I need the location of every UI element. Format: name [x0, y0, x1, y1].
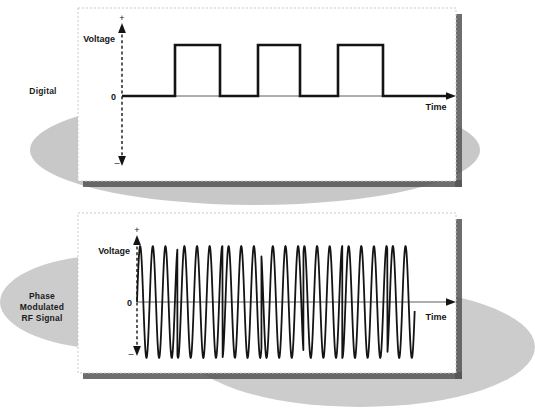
pm-label-line-2: Modulated	[8, 302, 76, 313]
figure-canvas: Digital + – Voltage 0 Time Phase Modulat…	[0, 0, 535, 414]
pm-minus-sign: –	[128, 349, 133, 359]
pm-label-line-3: RF Signal	[8, 313, 76, 324]
digital-panel-card	[78, 8, 456, 181]
digital-label-text: Digital	[29, 86, 56, 96]
digital-y-axis-label: Voltage	[83, 34, 115, 44]
digital-panel-label: Digital	[12, 86, 74, 97]
pm-label-line-1: Phase	[8, 291, 76, 302]
phase-modulated-panel: + – Voltage 0 Time	[0, 207, 535, 414]
pm-y-axis-label: Voltage	[98, 246, 130, 256]
digital-zero-label: 0	[111, 92, 116, 102]
pm-plus-sign: +	[134, 225, 139, 235]
digital-minus-sign: –	[114, 158, 119, 168]
digital-panel: + – Voltage 0 Time	[0, 0, 535, 207]
digital-x-axis-label: Time	[426, 102, 447, 112]
pm-x-axis-label: Time	[426, 312, 447, 322]
phase-modulated-panel-label: Phase Modulated RF Signal	[8, 291, 76, 324]
digital-plus-sign: +	[119, 13, 124, 23]
pm-zero-label: 0	[127, 298, 132, 308]
